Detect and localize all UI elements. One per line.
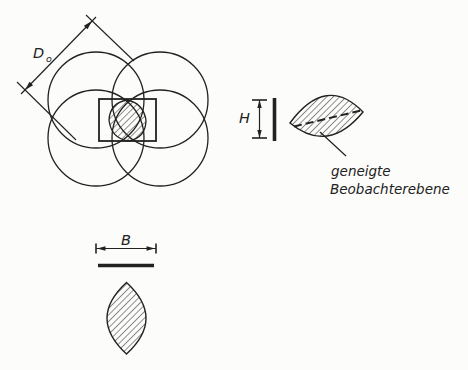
annotation-line2: Beobachterebene xyxy=(330,181,450,197)
arrowhead-right xyxy=(147,246,156,250)
inclined-overlap-lens xyxy=(290,95,363,156)
inclined-plane-annotation: geneigte Beobachterebene xyxy=(330,163,450,197)
arrowhead-left xyxy=(97,246,106,250)
annotation-line1: geneigte xyxy=(331,163,391,179)
overlap-lens-hatched xyxy=(109,100,146,141)
arrowhead-up xyxy=(257,100,261,108)
annotation-leader-line xyxy=(320,132,346,156)
lens-outline-hatched xyxy=(290,95,363,136)
diagram-canvas: D o H geneigte Beobachterebene B xyxy=(0,0,468,370)
d0-label-subscript: o xyxy=(46,53,52,64)
b-label: B xyxy=(121,232,131,248)
arrowhead-down xyxy=(257,130,261,138)
h-dimension: H xyxy=(239,100,267,138)
vertical-overlap-lens-hatched xyxy=(107,283,146,355)
photogrammetry-overlap-figure: D o H geneigte Beobachterebene B xyxy=(0,0,468,370)
h-label: H xyxy=(239,110,250,126)
extension-line-bottom xyxy=(17,82,76,140)
d0-label: D xyxy=(33,45,44,61)
b-dimension: B xyxy=(96,232,156,254)
